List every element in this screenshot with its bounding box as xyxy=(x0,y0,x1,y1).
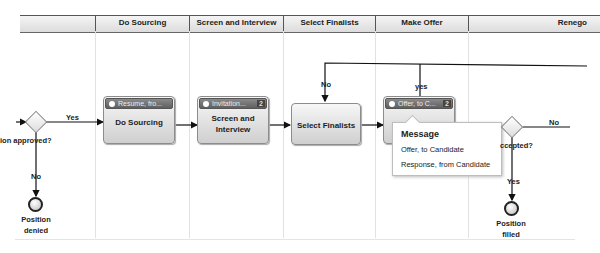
tooltip-item[interactable]: Offer, to Candidate xyxy=(401,145,464,154)
message-text: Invitation... xyxy=(212,99,252,108)
end-event-denied-line1: Position xyxy=(15,214,57,225)
message-count-badge: 2 xyxy=(257,100,265,107)
end-event-position-denied[interactable] xyxy=(28,197,43,212)
message-text: Resume, fro... xyxy=(118,99,162,108)
message-bar[interactable]: Resume, fro... xyxy=(105,98,173,109)
edge-label-yes: Yes xyxy=(507,177,520,186)
edge-label-no: No xyxy=(549,118,559,127)
loop-label-yes: yes xyxy=(415,82,428,91)
loop-label-no: No xyxy=(321,80,331,89)
edge-label-no: No xyxy=(31,172,41,181)
tooltip-item[interactable]: Response, from Candidate xyxy=(401,160,490,169)
message-tooltip: Message Offer, to Candidate Response, fr… xyxy=(392,122,502,176)
task-label: Screen and Interview xyxy=(198,113,268,135)
task-label-line2: Interview xyxy=(198,124,268,135)
edge-label-yes: Yes xyxy=(66,113,79,122)
message-bar[interactable]: Offer, to C... 2 xyxy=(385,98,453,109)
message-count-badge: 2 xyxy=(443,100,451,107)
task-label: Select Finalists xyxy=(292,120,360,131)
task-do-sourcing[interactable]: Resume, fro... Do Sourcing xyxy=(103,96,175,144)
tooltip-title: Message xyxy=(401,129,439,139)
task-screen-and-interview[interactable]: Invitation... 2 Screen and Interview xyxy=(197,96,269,144)
task-label-line1: Screen and xyxy=(198,113,268,124)
gateway-approval-label: ion approved? xyxy=(0,135,52,146)
message-icon xyxy=(389,101,395,107)
end-event-denied-label: Position denied xyxy=(15,214,57,236)
gateway-accepted-label: ccepted? xyxy=(500,140,533,151)
message-icon xyxy=(109,101,115,107)
connector-loop-top xyxy=(325,63,587,101)
task-label: Do Sourcing xyxy=(104,117,174,128)
message-icon xyxy=(203,101,209,107)
end-event-position-filled[interactable] xyxy=(504,201,519,216)
end-event-filled-label: Position filled xyxy=(490,218,532,240)
end-event-filled-line1: Position xyxy=(490,218,532,229)
end-event-filled-line2: filled xyxy=(490,229,532,240)
message-text: Offer, to C... xyxy=(398,99,438,108)
end-event-denied-line2: denied xyxy=(15,225,57,236)
message-bar[interactable]: Invitation... 2 xyxy=(199,98,267,109)
task-select-finalists[interactable]: Select Finalists xyxy=(291,103,361,145)
